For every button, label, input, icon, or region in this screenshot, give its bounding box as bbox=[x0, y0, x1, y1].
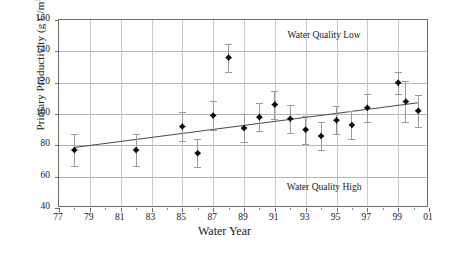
error-bar-cap bbox=[415, 95, 422, 96]
error-bar-cap bbox=[318, 150, 325, 151]
x-minor-tick bbox=[259, 208, 260, 210]
y-axis-label-superscript: 3 bbox=[34, 0, 42, 2]
error-bar-cap bbox=[71, 166, 78, 167]
error-bar-cap bbox=[271, 119, 278, 120]
x-minor-tick bbox=[321, 208, 322, 210]
y-tick-mark bbox=[55, 114, 59, 115]
data-point bbox=[133, 147, 140, 154]
error-bar-cap bbox=[348, 111, 355, 112]
error-bar-cap bbox=[256, 103, 263, 104]
plot-area: Water Quality LowWater Quality High bbox=[58, 19, 428, 207]
error-bar-cap bbox=[133, 134, 140, 135]
data-point bbox=[333, 117, 340, 124]
error-bar-cap bbox=[364, 94, 371, 95]
error-bar-cap bbox=[333, 106, 340, 107]
x-gridline bbox=[306, 20, 307, 206]
x-minor-tick bbox=[105, 208, 106, 210]
x-minor-tick bbox=[414, 208, 415, 210]
y-tick-label: 60 bbox=[0, 171, 50, 181]
error-bar-cap bbox=[302, 144, 309, 145]
error-bar-cap bbox=[179, 141, 186, 142]
x-minor-tick bbox=[74, 208, 75, 210]
y-tick-label: 140 bbox=[0, 45, 50, 55]
error-bar-cap bbox=[179, 112, 186, 113]
data-point bbox=[302, 126, 309, 133]
error-bar-cap bbox=[302, 116, 309, 117]
x-gridline bbox=[152, 20, 153, 206]
y-tick-mark bbox=[55, 145, 59, 146]
chart-figure: Primary Productivity (g C/m3) Water Qual… bbox=[0, 0, 449, 261]
error-bar-cap bbox=[395, 72, 402, 73]
y-tick-label: 40 bbox=[0, 202, 50, 212]
data-point bbox=[318, 132, 325, 139]
data-point bbox=[271, 101, 278, 108]
x-minor-tick bbox=[290, 208, 291, 210]
y-tick-mark bbox=[55, 83, 59, 84]
x-gridline bbox=[398, 20, 399, 206]
x-minor-tick bbox=[229, 208, 230, 210]
data-point bbox=[348, 121, 355, 128]
y-tick-label: 80 bbox=[0, 139, 50, 149]
error-bar-cap bbox=[348, 139, 355, 140]
error-bar-cap bbox=[241, 114, 248, 115]
x-minor-tick bbox=[167, 208, 168, 210]
y-tick-label: 100 bbox=[0, 108, 50, 118]
error-bar-cap bbox=[194, 167, 201, 168]
error-bar-cap bbox=[133, 166, 140, 167]
y-tick-mark bbox=[55, 51, 59, 52]
error-bar-cap bbox=[210, 101, 217, 102]
data-point bbox=[287, 115, 294, 122]
error-bar-cap bbox=[364, 122, 371, 123]
y-gridline bbox=[59, 145, 427, 146]
error-bar-cap bbox=[271, 91, 278, 92]
error-bar-cap bbox=[415, 127, 422, 128]
y-tick-mark bbox=[55, 177, 59, 178]
x-axis-label: Water Year bbox=[0, 224, 449, 239]
annotation-water-quality-high: Water Quality High bbox=[287, 182, 362, 192]
x-minor-tick bbox=[352, 208, 353, 210]
error-bar-cap bbox=[402, 122, 409, 123]
x-gridline bbox=[90, 20, 91, 206]
error-bar-cap bbox=[395, 94, 402, 95]
data-point bbox=[194, 150, 201, 157]
data-point bbox=[395, 79, 402, 86]
x-minor-tick bbox=[198, 208, 199, 210]
x-tick-label: 01 bbox=[408, 213, 448, 223]
y-gridline bbox=[59, 83, 427, 84]
error-bar-cap bbox=[225, 72, 232, 73]
error-bar-cap bbox=[256, 131, 263, 132]
error-bar-cap bbox=[194, 139, 201, 140]
y-gridline bbox=[59, 177, 427, 178]
y-tick-mark bbox=[55, 20, 59, 21]
y-tick-label: 160 bbox=[0, 14, 50, 24]
x-minor-tick bbox=[383, 208, 384, 210]
error-bar-cap bbox=[333, 134, 340, 135]
error-bar-cap bbox=[225, 44, 232, 45]
annotation-water-quality-low: Water Quality Low bbox=[288, 30, 361, 40]
error-bar-cap bbox=[287, 105, 294, 106]
data-point bbox=[225, 54, 232, 61]
error-bar-cap bbox=[71, 134, 78, 135]
x-gridline bbox=[121, 20, 122, 206]
y-tick-label: 120 bbox=[0, 77, 50, 87]
error-bar-cap bbox=[318, 122, 325, 123]
data-point bbox=[179, 123, 186, 130]
error-bar-cap bbox=[402, 81, 409, 82]
x-minor-tick bbox=[136, 208, 137, 210]
error-bar-cap bbox=[241, 142, 248, 143]
error-bar-cap bbox=[210, 130, 217, 131]
error-bar-cap bbox=[287, 133, 294, 134]
y-gridline bbox=[59, 51, 427, 52]
x-gridline bbox=[244, 20, 245, 206]
